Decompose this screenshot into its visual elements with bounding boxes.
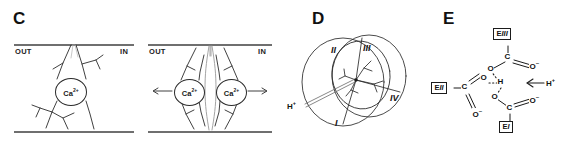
domain-label-iv: IV bbox=[390, 94, 399, 103]
calcium-ion-left: Ca2+ bbox=[174, 79, 205, 106]
domain-divider-ii-iii bbox=[356, 38, 362, 80]
residue-box-eii: EII bbox=[431, 82, 447, 94]
domain-label-iii: III bbox=[363, 44, 371, 53]
hydrogen-bond-network-diagram bbox=[425, 0, 565, 149]
domain-label-i: I bbox=[335, 119, 338, 128]
calcium-ion-label-right: Ca2+ bbox=[224, 87, 239, 98]
atom-oxygen-anion-eiii: O– bbox=[529, 60, 540, 71]
atom-oxygen-eiii-bridging: O bbox=[487, 65, 494, 73]
atom-oxygen-eii-bridging: O bbox=[480, 74, 487, 82]
panel-c: C OUT IN bbox=[0, 0, 285, 149]
proton-entry-arrow bbox=[305, 79, 355, 107]
calcium-ion-label: Ca2+ bbox=[63, 87, 78, 98]
proton-label-d: H+ bbox=[287, 101, 296, 111]
calcium-ion-right: Ca2+ bbox=[216, 79, 247, 106]
atom-carbon-ei: C bbox=[506, 104, 513, 112]
figure-panels-c-d-e: C OUT IN bbox=[0, 0, 565, 149]
residue-box-eiii: EIII bbox=[493, 28, 511, 40]
panel-d: D bbox=[285, 0, 425, 149]
proton-arrow-e bbox=[527, 79, 544, 87]
efflux-arrow-left bbox=[153, 88, 172, 94]
calcium-ion-label-left: Ca2+ bbox=[182, 87, 197, 98]
outer-ellipse-front bbox=[302, 38, 384, 126]
atom-oxygen-anion-eii: O– bbox=[472, 108, 483, 119]
atom-hydrogen-central: H bbox=[497, 78, 504, 86]
proton-label-e: H+ bbox=[546, 78, 555, 88]
calcium-ion: Ca2+ bbox=[55, 78, 87, 106]
atom-oxygen-anion-ei: O– bbox=[529, 94, 540, 105]
bond-eiii-c-o-left bbox=[494, 62, 505, 68]
domain-label-ii: II bbox=[331, 46, 336, 55]
panel-e: E bbox=[425, 0, 565, 149]
residue-box-ei: EI bbox=[499, 121, 513, 133]
channel-protein-outline-right bbox=[0, 0, 285, 149]
atom-oxygen-ei-bridging: O bbox=[491, 93, 498, 101]
influx-arrow-right bbox=[248, 88, 267, 94]
pore-top-view-diagram bbox=[285, 0, 425, 149]
atom-carbon-eiii: C bbox=[504, 53, 511, 61]
proton-binding-site-dot bbox=[354, 78, 358, 82]
inner-ellipse bbox=[328, 37, 395, 112]
atom-carbon-eii: C bbox=[461, 83, 468, 91]
